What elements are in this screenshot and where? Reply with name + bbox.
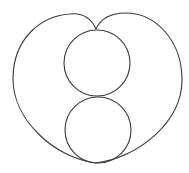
figure-group	[13, 13, 182, 163]
outer-heart-curve	[13, 13, 182, 163]
upper-circle	[64, 30, 130, 96]
lower-circle	[65, 97, 131, 163]
diagram-canvas	[0, 0, 189, 173]
